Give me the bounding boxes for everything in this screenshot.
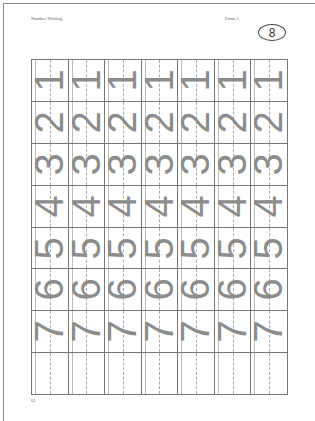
tracing-cell: 6 [141,268,178,310]
tracing-digit [29,356,70,392]
tracing-cell [31,352,68,394]
form-label: Form A [225,16,239,21]
tracing-digit [249,356,290,392]
tracing-cell: 4 [214,185,251,227]
tracing-cell: 7 [250,310,287,352]
tracing-cell: 3 [68,143,105,185]
tracing-cell: 6 [104,268,141,310]
tracing-cell: 2 [104,101,141,143]
tracing-cell [177,352,214,394]
tracing-digit [176,356,217,392]
tracing-cell: 4 [141,185,178,227]
tracing-cell: 5 [214,227,251,269]
tracing-cell: 1 [104,59,141,101]
page-border-top [3,3,315,4]
tracing-cell: 3 [104,143,141,185]
tracing-cell: 2 [177,101,214,143]
tracing-cell: 2 [250,101,287,143]
tracing-digit [212,356,253,392]
tracing-cell: 2 [214,101,251,143]
tracing-cell: 4 [177,185,214,227]
tracing-digit: 3 [249,146,290,182]
tracing-digit: 4 [249,188,290,224]
tracing-cell: 4 [31,185,68,227]
tracing-cell: 6 [177,268,214,310]
worksheet-title: Number Writing [31,16,62,21]
tracing-cell: 1 [68,59,105,101]
tracing-digit: 2 [249,105,290,141]
tracing-cell: 6 [250,268,287,310]
tracing-cell: 3 [31,143,68,185]
tracing-digit [102,356,143,392]
tracing-cell [214,352,251,394]
tracing-cell: 4 [68,185,105,227]
tracing-cell: 5 [177,227,214,269]
tracing-cell: 3 [250,143,287,185]
tracing-cell: 7 [177,310,214,352]
tracing-cell: 7 [104,310,141,352]
tracing-cell: 7 [68,310,105,352]
tracing-cell: 1 [141,59,178,101]
tracing-digit [66,356,107,392]
tracing-cell: 2 [141,101,178,143]
tracing-cell: 1 [177,59,214,101]
tracing-cell: 4 [250,185,287,227]
tracing-digit: 7 [249,314,290,350]
tracing-cell [104,352,141,394]
tracing-cell [68,352,105,394]
tracing-cell: 5 [31,227,68,269]
tracing-cell: 6 [68,268,105,310]
tracing-cell: 4 [104,185,141,227]
tracing-cell: 7 [141,310,178,352]
tracing-digit [139,356,180,392]
tracing-cell: 6 [214,268,251,310]
tracing-cell: 7 [31,310,68,352]
tracing-digit: 1 [249,63,290,99]
page-number: 62 [31,398,36,403]
tracing-cell: 1 [31,59,68,101]
tracing-cell: 5 [68,227,105,269]
tracing-cell: 3 [177,143,214,185]
tracing-cell: 2 [31,101,68,143]
tracing-cell: 3 [141,143,178,185]
tracing-cell: 7 [214,310,251,352]
tracing-digit: 6 [249,272,290,308]
tracing-cell: 5 [104,227,141,269]
tracing-grid: 1111111222222233333334444444555555566666… [31,59,288,395]
worksheet-number-badge: 8 [258,24,286,41]
page-border-left [3,3,4,421]
tracing-digit: 5 [249,230,290,266]
tracing-cell: 1 [214,59,251,101]
tracing-cell: 3 [214,143,251,185]
tracing-cell: 5 [250,227,287,269]
tracing-cell: 1 [250,59,287,101]
tracing-cell: 5 [141,227,178,269]
tracing-cell [141,352,178,394]
tracing-cell [250,352,287,394]
tracing-cell: 2 [68,101,105,143]
tracing-cell: 6 [31,268,68,310]
